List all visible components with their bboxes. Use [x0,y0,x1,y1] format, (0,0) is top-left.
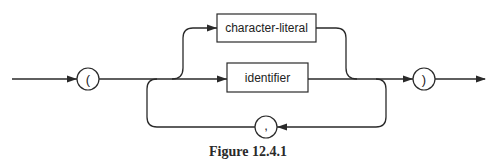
arrow-icon [217,76,227,83]
branch-up-line [172,28,217,79]
railroad-diagram: ( character-literal identifier ) , [0,0,496,164]
close-paren-label: ) [422,72,426,87]
arrow-icon [67,76,77,83]
identifier-box: identifier [227,63,308,92]
character-literal-box: character-literal [217,14,316,42]
arrow-icon [277,124,287,131]
branch-rejoin-line [316,28,357,79]
open-paren-terminal: ( [77,68,99,90]
comma-terminal: , [255,116,277,138]
character-literal-label: character-literal [225,21,308,35]
arrow-icon [476,76,486,83]
comma-label: , [264,118,268,133]
arrow-icon [207,25,217,32]
open-paren-label: ( [86,72,91,87]
close-paren-terminal: ) [413,68,435,90]
figure-caption: Figure 12.4.1 [0,144,496,160]
identifier-label: identifier [245,71,290,85]
arrow-icon [403,76,413,83]
